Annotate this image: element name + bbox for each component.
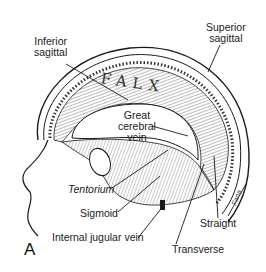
label-superior-sagittal: Superior sagittal — [206, 22, 246, 44]
label-internal-jugular-vein: Internal jugular vein — [52, 232, 144, 243]
label-straight: Straight — [200, 218, 236, 229]
label-great-cerebral-vein: Great cerebral vein — [118, 110, 156, 143]
artist-signature: Fana — [230, 189, 242, 206]
label-tentorium: Tentorium — [68, 184, 114, 195]
label-inferior-sagittal: Inferior sagittal — [34, 36, 67, 58]
label-line: sagittal — [34, 47, 67, 58]
label-sigmoid: Sigmoid — [80, 208, 118, 219]
panel-letter: A — [24, 240, 35, 260]
label-line: vein — [118, 132, 156, 143]
label-transverse: Transverse — [172, 244, 224, 255]
face-profile — [23, 140, 48, 236]
label-line: sagittal — [206, 33, 246, 44]
